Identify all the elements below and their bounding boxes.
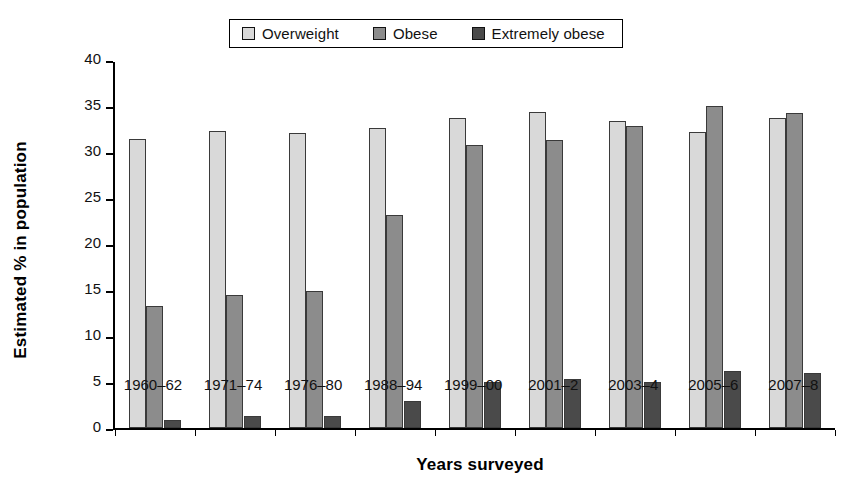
legend-label-obese: Obese [393,25,438,42]
bar-chart: Overweight Obese Extremely obese Estimat… [0,0,845,500]
y-axis-tick: 5 [106,383,113,384]
bar[interactable] [146,306,163,428]
y-axis-tick: 20 [106,245,113,246]
legend-swatch-extremely-obese [472,27,485,40]
chart-legend: Overweight Obese Extremely obese [229,19,623,48]
y-axis-tick-label: 30 [84,142,101,159]
x-axis-category-label: 1960–62 [113,376,193,393]
bar-group [449,62,501,428]
bar-group [129,62,181,428]
bar[interactable] [386,215,403,428]
bar-group [369,62,421,428]
legend-swatch-obese [373,27,386,40]
y-axis-tick-label: 5 [93,372,101,389]
bar[interactable] [324,416,341,429]
y-axis-title: Estimated % in population [6,50,36,450]
x-axis-tick [115,430,116,436]
bar[interactable] [164,420,181,428]
y-axis-tick-label: 35 [84,96,101,113]
bar[interactable] [306,291,323,428]
y-axis-tick-label: 25 [84,188,101,205]
x-axis-category-label: 2001–2 [513,376,593,393]
bar[interactable] [404,401,421,429]
x-axis-tick [435,430,436,436]
y-axis-tick-label: 40 [84,50,101,67]
bar-group [209,62,261,428]
x-axis-category-label: 1976–80 [273,376,353,393]
x-axis-category-label: 2005–6 [673,376,753,393]
bar-group [289,62,341,428]
x-axis-category-label: 2007–8 [753,376,833,393]
bar[interactable] [244,416,261,428]
legend-item-obese: Obese [373,25,438,42]
x-axis-tick [595,430,596,436]
legend-label-extremely-obese: Extremely obese [492,25,605,42]
y-axis-tick: 10 [106,337,113,338]
y-axis-tick: 0 [106,429,113,430]
x-axis-title: Years surveyed [115,455,845,475]
x-axis-tick [675,430,676,436]
bar-group [609,62,661,428]
x-axis-category-label: 1988–94 [353,376,433,393]
y-axis-tick: 15 [106,291,113,292]
bar-groups [115,62,835,428]
x-axis-category-label: 1971–74 [193,376,273,393]
y-axis-tick: 25 [106,199,113,200]
y-axis-tick-label: 20 [84,234,101,251]
legend-swatch-overweight [242,27,255,40]
x-axis-line [113,428,835,430]
bar-group [689,62,741,428]
bar[interactable] [226,295,243,428]
x-axis-tick [195,430,196,436]
x-axis-tick [835,430,836,436]
y-axis-tick-label: 15 [84,280,101,297]
y-axis-tick: 35 [106,107,113,108]
y-axis-tick: 40 [106,61,113,62]
y-axis-tick-label: 0 [93,418,101,435]
x-axis-tick [515,430,516,436]
x-axis-category-label: 2003–4 [593,376,673,393]
legend-item-overweight: Overweight [242,25,339,42]
legend-label-overweight: Overweight [262,25,339,42]
x-axis-tick [275,430,276,436]
legend-item-extremely-obese: Extremely obese [472,25,605,42]
y-axis-tick: 30 [106,153,113,154]
x-axis-tick [755,430,756,436]
bar-group [529,62,581,428]
x-axis-category-label: 1999–00 [433,376,513,393]
bar-group [769,62,821,428]
x-axis-tick [355,430,356,436]
y-axis-tick-label: 10 [84,326,101,343]
plot-area: 0510152025303540 [113,62,835,430]
